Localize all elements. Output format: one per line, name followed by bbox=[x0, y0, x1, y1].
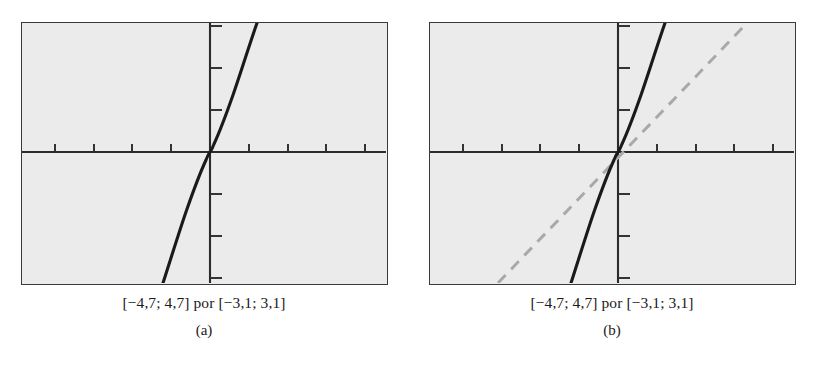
plot-canvas-a bbox=[22, 23, 386, 283]
x-ticks-right-b bbox=[657, 144, 773, 152]
x-ticks-left-a bbox=[55, 144, 171, 152]
x-ticks-left-b bbox=[463, 144, 579, 152]
caption-window-b: [−4,7; 4,7] por [−3,1; 3,1] bbox=[408, 293, 816, 312]
caption-window-a: [−4,7; 4,7] por [−3,1; 3,1] bbox=[0, 293, 408, 312]
y-ticks-up-a bbox=[210, 26, 222, 110]
caption-label-b: (b) bbox=[408, 321, 816, 339]
caption-label-a: (a) bbox=[0, 321, 408, 339]
plot-frame-b bbox=[429, 22, 796, 285]
plot-frame-a bbox=[21, 22, 388, 285]
y-ticks-down-a bbox=[210, 194, 222, 278]
panel-a: [−4,7; 4,7] por [−3,1; 3,1] (a) bbox=[0, 0, 408, 375]
y-ticks-down-b bbox=[618, 194, 630, 278]
plot-canvas-b bbox=[430, 23, 794, 283]
caption-block-a: [−4,7; 4,7] por [−3,1; 3,1] (a) bbox=[0, 293, 408, 339]
panel-b: [−4,7; 4,7] por [−3,1; 3,1] (b) bbox=[408, 0, 816, 375]
x-ticks-right-a bbox=[249, 144, 365, 152]
caption-block-b: [−4,7; 4,7] por [−3,1; 3,1] (b) bbox=[408, 293, 816, 339]
y-ticks-up-b bbox=[618, 26, 630, 110]
figure-container: [−4,7; 4,7] por [−3,1; 3,1] (a) bbox=[0, 0, 816, 375]
